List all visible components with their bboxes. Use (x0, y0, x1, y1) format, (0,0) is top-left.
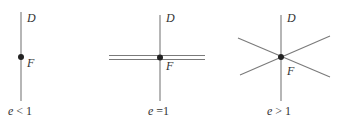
panel-parabola: D F e =1 (109, 11, 205, 118)
eccentricity-caption: e < 1 (8, 104, 32, 118)
eccentricity-diagram: D F e < 1 D F e =1 D F e > 1 (0, 0, 340, 122)
eccentricity-caption: e =1 (148, 104, 169, 118)
directrix-label: D (26, 11, 36, 25)
focus-point (18, 54, 24, 60)
focus-point (278, 54, 284, 60)
diagonal-line-ascending (240, 36, 330, 75)
focus-label: F (26, 56, 35, 70)
directrix-label: D (286, 11, 296, 25)
focus-label: F (286, 64, 295, 78)
focus-label: F (165, 59, 174, 73)
panel-ellipse: D F e < 1 (8, 11, 36, 118)
eccentricity-caption: e > 1 (267, 104, 291, 118)
diagonal-line-descending (238, 38, 330, 77)
directrix-label: D (165, 11, 175, 25)
focus-point (157, 55, 163, 61)
panel-hyperbola: D F e > 1 (238, 11, 330, 118)
